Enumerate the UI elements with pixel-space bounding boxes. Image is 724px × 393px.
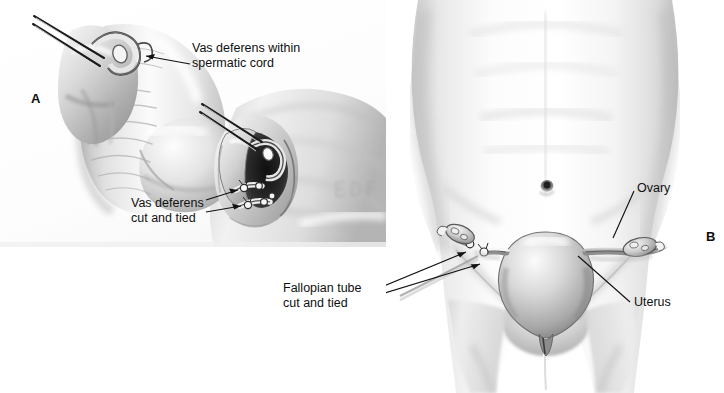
callout-uterus: Uterus — [634, 295, 671, 310]
illustration-canvas — [0, 0, 724, 393]
panel-label-a: A — [31, 91, 41, 106]
callout-fallopian-tube-cut-and-tied: Fallopian tube cut and tied — [283, 281, 362, 311]
panel-b-tubal-ligation-illustration — [372, 0, 724, 393]
callout-vas-deferens-cut-and-tied: Vas deferens cut and tied — [131, 196, 204, 226]
panel-label-b: B — [706, 229, 716, 244]
medical-illustration-figure: A B Vas deferens within spermatic cord V… — [0, 0, 724, 393]
callout-ovary: Ovary — [637, 181, 670, 196]
callout-vas-deferens-within-spermatic-cord: Vas deferens within spermatic cord — [192, 41, 300, 71]
